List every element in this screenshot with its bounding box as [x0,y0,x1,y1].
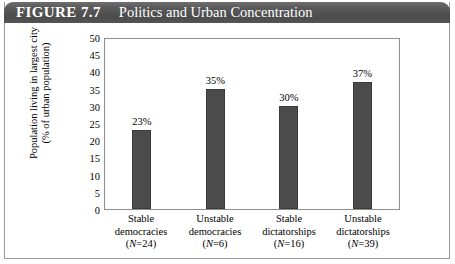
y-axis-tick: 25 [90,119,101,130]
x-axis-category-label: Stabledemocracies(N=24) [104,213,178,251]
category-line-2: democracies [104,226,178,239]
bar-value-label: 35% [206,75,225,86]
bar-value-label: 23% [132,116,151,127]
figure-number-label: FIGURE 7.7 [4,4,101,21]
bar[interactable] [279,106,298,209]
x-axis-category-label: Unstabledemocracies(N=6) [178,213,252,251]
y-axis-tick: 0 [95,205,100,216]
category-sample-size: (N=16) [252,238,326,251]
category-line-2: dictatorships [252,226,326,239]
x-axis-tick-labels: Stabledemocracies(N=24)Unstabledemocraci… [104,213,400,251]
category-sample-size: (N=6) [178,238,252,251]
bar-chart: Population living in largest city (% of … [4,23,450,259]
bar-slot: 37% [326,39,400,209]
category-line-1: Stable [104,213,178,226]
y-axis-tick: 10 [90,170,101,181]
bar[interactable] [132,130,151,209]
bar[interactable] [353,82,372,209]
figure-title: Politics and Urban Concentration [101,4,313,21]
y-axis-title: Population living in largest city (% of … [28,8,52,178]
category-line-1: Unstable [178,213,252,226]
y-axis-tick: 15 [90,153,101,164]
bar-slot: 30% [252,39,326,209]
category-line-2: dictatorships [326,226,400,239]
y-axis-tick: 50 [90,33,101,44]
category-sample-size: (N=39) [326,238,400,251]
figure-header: FIGURE 7.7 Politics and Urban Concentrat… [4,2,450,23]
x-axis-category-label: Stabledictatorships(N=16) [252,213,326,251]
category-line-2: democracies [178,226,252,239]
y-axis-tick: 30 [90,101,101,112]
x-axis-category-label: Unstabledictatorships(N=39) [326,213,400,251]
category-sample-size: (N=24) [104,238,178,251]
category-line-1: Unstable [326,213,400,226]
y-axis-title-line2: (% of urban population) [40,8,52,178]
bar-value-label: 30% [279,92,298,103]
y-axis-tick: 20 [90,136,101,147]
bar[interactable] [206,89,225,209]
y-axis-title-line1: Population living in largest city [28,8,40,178]
plot-area: 23%35%30%37% [104,38,400,210]
y-axis-tick: 5 [95,187,100,198]
y-axis-tick: 45 [90,50,101,61]
y-axis-tick: 35 [90,84,101,95]
y-axis-tick: 40 [90,67,101,78]
bar-value-label: 37% [353,68,372,79]
category-line-1: Stable [252,213,326,226]
bar-slot: 35% [179,39,253,209]
bars-layer: 23%35%30%37% [105,39,399,209]
bar-slot: 23% [105,39,179,209]
y-axis-tick-labels: 50454035302520151050 [82,38,100,210]
